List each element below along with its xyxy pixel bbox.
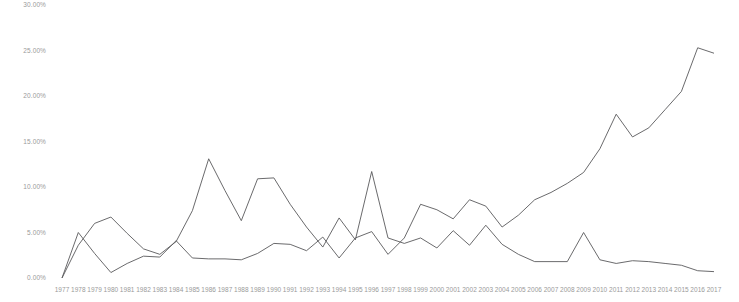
x-axis-tick-label: 1995 — [348, 286, 363, 294]
x-axis-tick-label: 2000 — [430, 286, 445, 294]
y-axis-tick-label: 15.00% — [0, 138, 46, 146]
x-axis-tick-label: 2015 — [674, 286, 689, 294]
y-axis-tick-label: 5.00% — [0, 229, 46, 237]
x-axis-tick-label: 1996 — [364, 286, 379, 294]
x-axis-tick-label: 2010 — [593, 286, 608, 294]
x-axis-tick-label: 2014 — [658, 286, 673, 294]
x-axis-tick-label: 1982 — [136, 286, 151, 294]
x-axis-tick-label: 2016 — [690, 286, 705, 294]
y-axis-tick-label: 30.00% — [0, 1, 46, 9]
x-axis-tick-label: 1987 — [218, 286, 233, 294]
x-axis-tick-label: 1980 — [104, 286, 119, 294]
x-axis-tick-label: 2013 — [641, 286, 656, 294]
x-axis-tick-label: 2001 — [446, 286, 461, 294]
x-axis-tick-label: 2002 — [462, 286, 477, 294]
x-axis-tick-label: 2008 — [560, 286, 575, 294]
plot-area — [0, 0, 739, 302]
x-axis-tick-label: 2012 — [625, 286, 640, 294]
x-axis-tick-label: 1997 — [381, 286, 396, 294]
x-axis-tick-label: 1988 — [234, 286, 249, 294]
y-axis-tick-label: 25.00% — [0, 47, 46, 55]
x-axis-tick-label: 1983 — [152, 286, 167, 294]
x-axis-tick-label: 2006 — [527, 286, 542, 294]
x-axis-tick-label: 1999 — [413, 286, 428, 294]
x-axis-tick-label: 1994 — [332, 286, 347, 294]
x-axis-tick-label: 1992 — [299, 286, 314, 294]
x-axis-tick-label: 1977 — [55, 286, 70, 294]
x-axis-tick-label: 2017 — [707, 286, 722, 294]
line-chart: 0.00%5.00%10.00%15.00%20.00%25.00%30.00%… — [0, 0, 739, 302]
y-axis-tick-label: 0.00% — [0, 274, 46, 282]
series-line-2 — [62, 159, 714, 278]
x-axis-tick-label: 2011 — [609, 286, 623, 294]
x-axis-tick-label: 1986 — [201, 286, 216, 294]
x-axis-tick-label: 1991 — [283, 286, 298, 294]
x-axis-tick-label: 1981 — [120, 286, 135, 294]
x-axis-tick-label: 1989 — [250, 286, 265, 294]
x-axis-tick-label: 1990 — [267, 286, 282, 294]
x-axis-tick-label: 1984 — [169, 286, 184, 294]
x-axis-tick-label: 2009 — [576, 286, 591, 294]
x-axis-tick-label: 2004 — [495, 286, 510, 294]
x-axis-tick-label: 1993 — [315, 286, 330, 294]
series-layer — [62, 48, 714, 278]
x-axis-tick-label: 2007 — [544, 286, 559, 294]
y-axis-tick-label: 10.00% — [0, 183, 46, 191]
x-axis-tick-label: 1998 — [397, 286, 412, 294]
x-axis-tick-label: 1979 — [87, 286, 102, 294]
x-axis-tick-label: 2005 — [511, 286, 526, 294]
x-axis-tick-label: 1978 — [71, 286, 86, 294]
y-axis-tick-label: 20.00% — [0, 92, 46, 100]
x-axis-tick-label: 2003 — [478, 286, 493, 294]
series-line-1 — [62, 48, 714, 278]
x-axis-tick-label: 1985 — [185, 286, 200, 294]
